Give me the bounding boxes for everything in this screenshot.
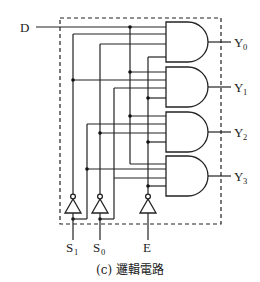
label-y0: Y 0 bbox=[234, 35, 247, 52]
gate-y1-inputs bbox=[73, 72, 166, 98]
and-gate-y0 bbox=[166, 22, 208, 62]
label-e: E bbox=[143, 240, 151, 255]
output-wires bbox=[208, 42, 231, 176]
label-s1: S 1 bbox=[66, 240, 78, 257]
svg-text:S: S bbox=[66, 240, 73, 255]
label-y3: Y 3 bbox=[234, 169, 247, 186]
label-s0: S 0 bbox=[93, 240, 105, 257]
gate-y0-inputs bbox=[73, 34, 166, 57]
inverter-s0 bbox=[92, 194, 114, 240]
svg-text:S: S bbox=[93, 240, 100, 255]
junction-dots bbox=[71, 25, 150, 221]
label-y2: Y 2 bbox=[234, 125, 247, 142]
circuit-diagram: D Y 0 Y 1 Y 2 Y 3 S 1 S 0 E (c) 邏輯電路 bbox=[0, 0, 260, 282]
svg-text:3: 3 bbox=[243, 176, 247, 186]
and-gate-y2 bbox=[166, 112, 208, 152]
circuit-svg: D Y 0 Y 1 Y 2 Y 3 S 1 S 0 E (c) 邏輯電路 bbox=[0, 0, 260, 282]
svg-text:1: 1 bbox=[74, 247, 78, 257]
gate-y2-inputs bbox=[87, 116, 166, 142]
and-gate-y1 bbox=[166, 67, 208, 107]
caption: (c) 邏輯電路 bbox=[96, 262, 164, 277]
inverter-e bbox=[140, 194, 156, 240]
svg-text:0: 0 bbox=[101, 247, 105, 257]
inverter-s1 bbox=[65, 194, 87, 240]
svg-text:1: 1 bbox=[243, 87, 247, 97]
vertical-buses bbox=[73, 27, 148, 219]
svg-text:2: 2 bbox=[243, 132, 247, 142]
label-d: D bbox=[20, 20, 29, 35]
svg-text:0: 0 bbox=[243, 42, 247, 52]
label-y1: Y 1 bbox=[234, 80, 247, 97]
gate-y3-inputs bbox=[87, 164, 166, 186]
and-gate-y3 bbox=[166, 156, 208, 196]
